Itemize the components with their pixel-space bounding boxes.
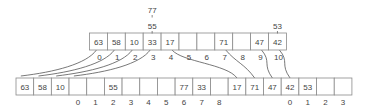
bottom-cell-box <box>87 78 105 95</box>
bottom-cell-value: 71 <box>250 83 259 92</box>
bottom-cell: 33 <box>193 78 211 95</box>
top-index-label: 7 <box>223 53 228 62</box>
top-index-label: 1 <box>115 53 120 62</box>
top-cell-value: 58 <box>112 38 121 47</box>
bottom-cell-value: 63 <box>20 83 29 92</box>
top-cell <box>179 33 197 50</box>
bottom-cell <box>157 78 175 95</box>
bottom-cell <box>140 78 158 95</box>
rehash-link <box>56 50 132 76</box>
bottom-cell-box <box>157 78 175 95</box>
bottom-cell <box>317 78 335 95</box>
bottom-cell <box>334 78 352 95</box>
bottom-cell: 71 <box>246 78 264 95</box>
bottom-array: 63581001552345776337817714742053123 <box>16 78 352 107</box>
bottom-cell: 42 <box>281 78 299 95</box>
top-cell-value: 33 <box>148 38 157 47</box>
top-cell-value: 17 <box>166 38 175 47</box>
bottom-index-label: 0 <box>288 98 293 107</box>
bottom-cell-box <box>317 78 335 95</box>
top-cell: 71 <box>215 33 233 50</box>
top-index-label: 9 <box>258 53 263 62</box>
top-cell-box <box>197 33 215 50</box>
bottom-cell: 17 <box>228 78 246 95</box>
top-cell-box <box>179 33 197 50</box>
bottom-cell-value: 42 <box>286 83 295 92</box>
bottom-cell-box <box>122 78 140 95</box>
links-layer <box>21 50 290 78</box>
top-index-label: 4 <box>169 53 174 62</box>
top-array: 6305811023331745671784794210 <box>90 33 287 62</box>
bottom-cell <box>69 78 87 95</box>
top-cell <box>197 33 215 50</box>
bottom-cell-box <box>334 78 352 95</box>
rehash-link <box>74 50 150 76</box>
bottom-cell-value: 17 <box>233 83 242 92</box>
bottom-cell: 58 <box>34 78 52 95</box>
bottom-index-label: 1 <box>305 98 310 107</box>
top-cell: 33 <box>143 33 161 50</box>
top-cell: 17 <box>161 33 179 50</box>
bottom-index-label: 7 <box>199 98 204 107</box>
bottom-index-label: 6 <box>182 98 187 107</box>
top-cell: 47 <box>251 33 269 50</box>
bottom-cell-box <box>140 78 158 95</box>
top-cell: 58 <box>107 33 125 50</box>
top-index-label: 3 <box>151 53 156 62</box>
bottom-cell-value: 10 <box>56 83 65 92</box>
top-cell-value: 71 <box>219 38 228 47</box>
top-index-label: 8 <box>240 53 245 62</box>
bottom-cell-value: 58 <box>38 83 47 92</box>
bottom-cell: 63 <box>16 78 34 95</box>
top-cell-box <box>233 33 251 50</box>
top-cell-value: 42 <box>273 38 282 47</box>
bottom-cell-box <box>210 78 228 95</box>
rehash-link <box>21 50 97 76</box>
bottom-cell: 53 <box>299 78 317 95</box>
bottom-cell-value: 47 <box>268 83 277 92</box>
bottom-cell: 47 <box>264 78 282 95</box>
bottom-cell <box>122 78 140 95</box>
top-index-label: 5 <box>187 53 192 62</box>
bottom-index-label: 5 <box>164 98 169 107</box>
top-index-label: 6 <box>205 53 210 62</box>
bottom-index-label: 3 <box>129 98 134 107</box>
top-index-label: 0 <box>97 53 102 62</box>
overflow-values: 557753 <box>148 6 283 34</box>
bottom-cell: 55 <box>104 78 122 95</box>
bottom-index-label: 2 <box>323 98 328 107</box>
top-cell-value: 63 <box>94 38 103 47</box>
bottom-cell-value: 33 <box>197 83 206 92</box>
overflow-value: 55 <box>148 22 157 31</box>
top-cell-value: 47 <box>255 38 264 47</box>
top-cell: 63 <box>90 33 108 50</box>
bottom-cell-value: 77 <box>180 83 189 92</box>
bottom-index-label: 8 <box>217 98 222 107</box>
bottom-cell <box>87 78 105 95</box>
bottom-cell: 77 <box>175 78 193 95</box>
bottom-cell-value: 53 <box>303 83 312 92</box>
hash-diagram: 6305811023331745671784794210 557753 6358… <box>0 0 372 109</box>
bottom-index-label: 3 <box>341 98 346 107</box>
bottom-index-label: 2 <box>111 98 116 107</box>
bottom-index-label: 0 <box>76 98 81 107</box>
top-cell <box>233 33 251 50</box>
top-cell: 42 <box>269 33 287 50</box>
top-cell: 10 <box>125 33 143 50</box>
bottom-cell-box <box>69 78 87 95</box>
top-index-label: 2 <box>133 53 138 62</box>
bottom-index-label: 1 <box>93 98 98 107</box>
top-index-label: 10 <box>274 53 283 62</box>
bottom-cell: 10 <box>51 78 69 95</box>
rehash-link <box>39 50 115 76</box>
bottom-cell <box>210 78 228 95</box>
bottom-cell-value: 55 <box>109 83 118 92</box>
overflow-value: 77 <box>148 6 157 15</box>
bottom-index-label: 4 <box>146 98 151 107</box>
top-cell-value: 10 <box>130 38 139 47</box>
rehash-link <box>262 50 273 78</box>
overflow-value: 53 <box>273 22 282 31</box>
